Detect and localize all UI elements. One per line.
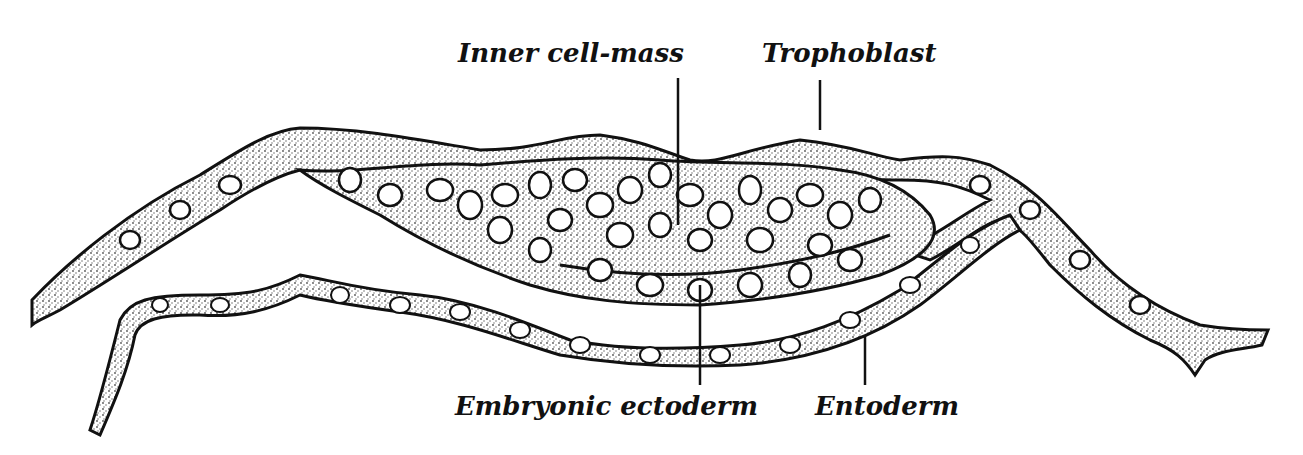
label-embryonic-ectoderm: Embryonic ectoderm bbox=[455, 393, 758, 419]
label-trophoblast: Trophoblast bbox=[762, 40, 936, 66]
tissue-drawing bbox=[0, 0, 1303, 455]
label-entoderm: Entoderm bbox=[815, 393, 959, 419]
embryo-section-diagram: Inner cell-mass Trophoblast Embryonic ec… bbox=[0, 0, 1303, 455]
label-inner-cell-mass: Inner cell-mass bbox=[458, 40, 684, 66]
